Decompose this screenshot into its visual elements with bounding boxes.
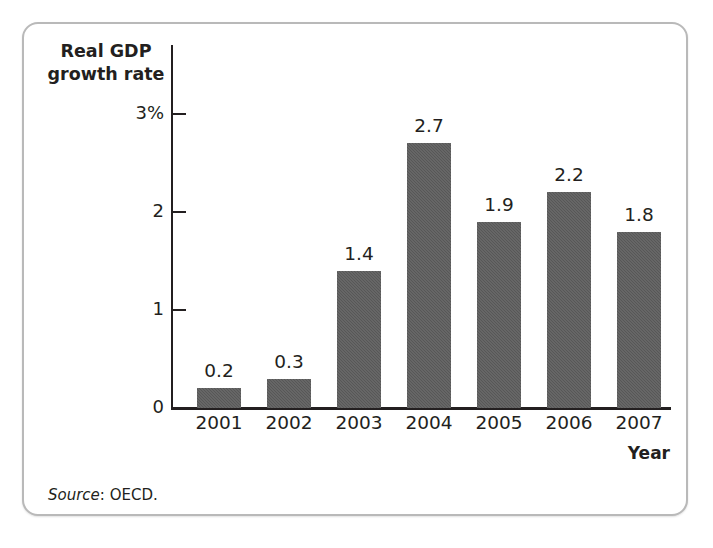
y-axis-tick-label-text: 0: [100, 398, 164, 416]
y-axis-tick: [173, 211, 186, 213]
chart-title-line-2: growth rate: [46, 63, 166, 86]
bar: [337, 271, 381, 408]
source-note: Source: OECD.: [48, 486, 158, 504]
x-axis-tick-label: 2004: [394, 414, 464, 433]
bar-value-label: 2.7: [399, 117, 459, 136]
x-axis-tick-label: 2003: [324, 414, 394, 433]
bar-value-label: 1.8: [609, 206, 669, 225]
y-axis-tick-label-text: 1: [100, 300, 164, 318]
bar-value-label: 1.9: [469, 196, 529, 215]
x-axis-tick-label: 2007: [604, 414, 674, 433]
y-axis-tick-label: 1: [100, 300, 164, 318]
y-axis-tick-label-text: 2: [100, 202, 164, 220]
x-axis-title: Year: [430, 443, 670, 463]
x-axis-tick-label: 2006: [534, 414, 604, 433]
source-label: Source: [48, 486, 100, 504]
y-axis-tick: [173, 113, 186, 115]
chart-title-line-1: Real GDP: [46, 40, 166, 63]
y-axis-tick-label-text: 3%: [100, 104, 164, 122]
bar: [197, 388, 241, 408]
x-axis-tick-label: 2001: [184, 414, 254, 433]
chart-title: Real GDP growth rate: [46, 40, 166, 86]
bar: [547, 192, 591, 408]
bar-value-label: 0.3: [259, 353, 319, 372]
bar: [617, 232, 661, 408]
source-value: : OECD.: [100, 486, 158, 504]
bar: [267, 379, 311, 408]
y-axis-tick-label: 0: [100, 398, 164, 416]
y-axis-tick: [173, 407, 186, 409]
y-axis-tick-label: 3%: [100, 104, 164, 122]
bar-value-label: 2.2: [539, 166, 599, 185]
x-axis-tick-label: 2005: [464, 414, 534, 433]
y-axis-line: [171, 45, 173, 410]
bar-value-label: 0.2: [189, 362, 249, 381]
y-axis-tick-label: 2: [100, 202, 164, 220]
bar: [407, 143, 451, 408]
y-axis-tick: [173, 309, 186, 311]
bar: [477, 222, 521, 408]
chart-plot-area: Real GDP growth rate 0123% 0.20.31.42.71…: [0, 0, 713, 548]
bar-value-label: 1.4: [329, 245, 389, 264]
x-axis-tick-label: 2002: [254, 414, 324, 433]
